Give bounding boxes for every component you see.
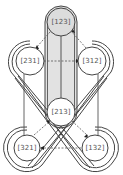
- node-label-312: [312]: [83, 57, 102, 65]
- node-123: [123]: [47, 8, 75, 36]
- node-label-321: [321]: [18, 144, 37, 152]
- node-213: [213]: [47, 98, 75, 126]
- node-231: [231]: [16, 47, 44, 75]
- node-132: [132]: [82, 135, 108, 161]
- permutation-diagram: [123] [231] [312] [213] [321] [132]: [0, 0, 123, 175]
- node-321: [321]: [14, 135, 40, 161]
- node-label-123: [123]: [52, 18, 71, 26]
- node-label-213: [213]: [52, 108, 71, 116]
- node-label-132: [132]: [86, 144, 105, 152]
- node-label-231: [231]: [21, 57, 40, 65]
- node-312: [312]: [78, 47, 106, 75]
